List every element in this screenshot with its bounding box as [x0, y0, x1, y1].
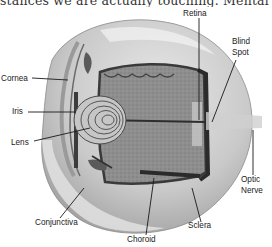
label-blind-spot-line1: Blind: [232, 36, 250, 47]
label-optic-nerve-line2: Nerve: [241, 185, 263, 196]
label-retina: Retina: [183, 8, 207, 19]
label-conjunctiva: Conjunctiva: [35, 217, 78, 228]
label-sclera: Sclera: [188, 220, 211, 231]
label-choroid: Choroid: [127, 234, 156, 245]
label-blind-spot-line2: Spot: [232, 47, 249, 58]
label-lens: Lens: [11, 137, 29, 148]
label-cornea: Cornea: [1, 73, 28, 84]
label-iris: Iris: [12, 106, 23, 117]
label-optic-nerve-line1: Optic: [241, 174, 260, 185]
lens-shape: [74, 96, 126, 144]
